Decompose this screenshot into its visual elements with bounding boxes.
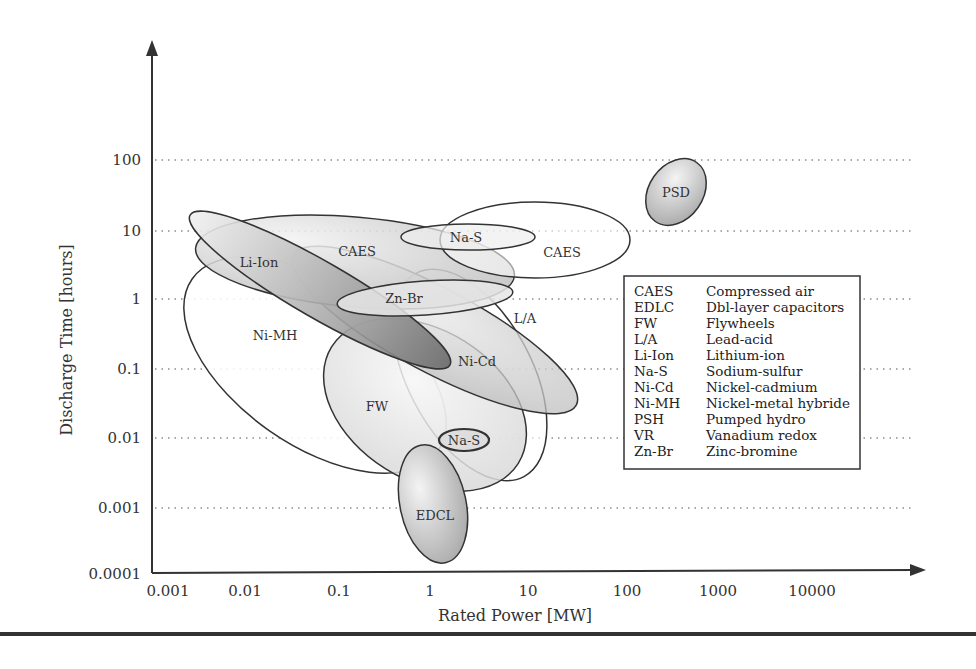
x-tick: 0.01	[228, 582, 261, 600]
legend-abbr: Na-S	[634, 363, 668, 379]
label-ni-cd: Ni-Cd	[458, 354, 496, 369]
legend-name: Dbl-layer capacitors	[706, 299, 844, 315]
y-tick: 100	[112, 151, 141, 169]
legend-abbr: VR	[633, 427, 655, 443]
page-bottom-rule	[0, 632, 976, 636]
legend-name: Nickel-metal hybride	[706, 395, 850, 411]
y-axis-arrow-icon	[146, 40, 158, 56]
legend-abbr: Zn-Br	[634, 443, 674, 459]
y-tick-labels: 100 10 1 0.1 0.01 0.001 0.0001	[89, 151, 142, 583]
label-ni-mh: Ni-MH	[253, 328, 298, 343]
legend-name: Zinc-bromine	[706, 443, 798, 459]
label-edcl: EDCL	[416, 508, 455, 523]
x-tick: 1000	[699, 582, 737, 600]
legend-name: Sodium-sulfur	[706, 363, 803, 379]
label-caes-large: CAES	[543, 245, 581, 260]
x-tick: 0.001	[147, 582, 190, 600]
x-axis-arrow-icon	[910, 564, 926, 576]
legend-abbr: CAES	[634, 283, 673, 299]
y-axis-title: Discharge Time [hours]	[57, 244, 76, 436]
legend-name: Compressed air	[706, 283, 814, 299]
x-tick: 0.1	[327, 582, 351, 600]
legend-abbr: EDLC	[634, 299, 674, 315]
chart: PSD CAES Na-S CAES Li-Ion Zn-Br L/A Ni-M…	[0, 0, 976, 669]
label-li-ion: Li-Ion	[240, 255, 279, 270]
x-tick: 10	[518, 582, 537, 600]
x-tick: 1	[425, 582, 435, 600]
label-nas-upper: Na-S	[450, 230, 482, 245]
y-tick: 0.0001	[89, 565, 142, 583]
label-caes-small: CAES	[338, 244, 376, 259]
legend-abbr: PSH	[634, 411, 664, 427]
y-tick: 10	[122, 222, 141, 240]
legend: CAES EDLC FW L/A Li-Ion Na-S Ni-Cd Ni-MH…	[624, 276, 860, 469]
x-tick-labels: 0.001 0.01 0.1 1 10 100 1000 10000	[147, 582, 836, 600]
label-nas-lower: Na-S	[448, 433, 480, 448]
label-fw: FW	[366, 399, 389, 414]
x-tick: 100	[613, 582, 642, 600]
y-tick: 1	[131, 290, 141, 308]
legend-name: Vanadium redox	[705, 427, 817, 443]
legend-name: Flywheels	[706, 315, 775, 331]
label-zn-br: Zn-Br	[385, 291, 423, 306]
legend-name: Pumped hydro	[706, 411, 806, 427]
legend-abbr: Li-Ion	[634, 347, 674, 363]
label-la: L/A	[514, 311, 537, 326]
legend-name: Lead-acid	[706, 331, 773, 347]
legend-name: Nickel-cadmium	[706, 379, 818, 395]
x-axis-title: Rated Power [MW]	[438, 606, 592, 625]
legend-name: Lithium-ion	[706, 347, 785, 363]
legend-abbr: Ni-MH	[634, 395, 681, 411]
y-tick: 0.01	[108, 429, 141, 447]
x-axis	[152, 570, 915, 573]
label-psd: PSD	[662, 185, 690, 200]
y-tick: 0.001	[98, 499, 141, 517]
legend-abbr: Ni-Cd	[634, 379, 674, 395]
x-tick: 10000	[788, 582, 836, 600]
legend-abbr: L/A	[634, 331, 658, 347]
y-tick: 0.1	[117, 360, 141, 378]
legend-abbr: FW	[634, 315, 657, 331]
